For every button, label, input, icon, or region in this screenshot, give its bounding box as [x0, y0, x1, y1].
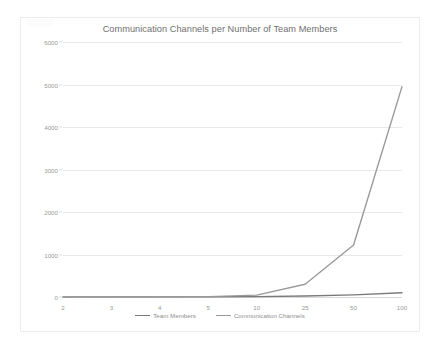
legend-label: Team Members [153, 312, 196, 319]
x-tick-label: 4 [158, 304, 161, 311]
x-tick-label: 100 [397, 304, 407, 311]
x-tick-label: 25 [302, 304, 309, 311]
y-tick-mark [59, 84, 62, 85]
y-tick-label: 3000 [44, 166, 58, 173]
y-tick-label: 0 [55, 294, 58, 301]
legend-item[interactable]: Team Members [135, 312, 196, 319]
chart-container: Communication Channels per Number of Tea… [20, 17, 420, 332]
legend-swatch-icon [135, 315, 150, 317]
legend-label: Communication Channels [234, 312, 305, 319]
y-tick-mark [59, 42, 62, 43]
series-lines [63, 42, 402, 297]
x-tick-label: 50 [350, 304, 357, 311]
chart-title: Communication Channels per Number of Tea… [21, 24, 419, 34]
x-tick-label: 10 [253, 304, 260, 311]
x-tick-label: 3 [110, 304, 113, 311]
legend-item[interactable]: Communication Channels [216, 312, 305, 319]
y-tick-mark [59, 169, 62, 170]
y-tick-label: 5000 [44, 81, 58, 88]
x-tick-label: 5 [207, 304, 210, 311]
series-line [63, 87, 402, 297]
y-tick-mark [59, 297, 62, 298]
stray-mark [413, 246, 418, 253]
legend-swatch-icon [216, 315, 231, 317]
y-tick-mark [59, 212, 62, 213]
y-tick-label: 4000 [44, 124, 58, 131]
y-tick-mark [59, 254, 62, 255]
x-tick-label: 2 [61, 304, 64, 311]
plot-area: 0100020003000400050006000 2345102550100 [63, 42, 402, 297]
y-tick-label: 1000 [44, 251, 58, 258]
y-tick-mark [59, 127, 62, 128]
y-tick-label: 6000 [44, 39, 58, 46]
y-tick-label: 2000 [44, 209, 58, 216]
chart-legend: Team MembersCommunication Channels [21, 312, 419, 319]
